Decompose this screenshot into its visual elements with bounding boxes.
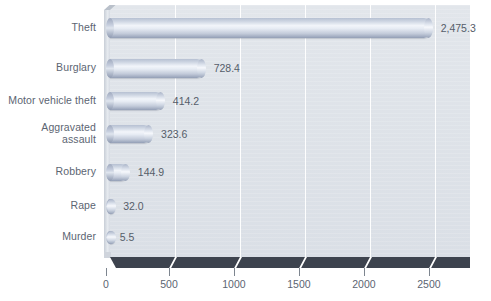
gridline-2000 — [370, 5, 372, 257]
floor-face — [110, 257, 470, 268]
bar — [110, 164, 129, 181]
axis-tick-2500 — [429, 268, 430, 276]
bar-value-label: 144.9 — [138, 166, 164, 178]
bar — [110, 199, 115, 214]
axis-tick-label: 1500 — [287, 278, 310, 290]
bar-end-cap — [107, 199, 116, 214]
axis-tick-0 — [106, 268, 107, 276]
category-label: Robbery — [56, 166, 96, 178]
bar-value-label: 32.0 — [123, 200, 143, 212]
gridline-2500 — [435, 5, 437, 257]
axis-tick-1000 — [234, 268, 235, 276]
bar-base-cap — [106, 125, 114, 143]
bar-chart: 2,475.3728.4414.2323.6144.932.05.5 Theft… — [0, 0, 491, 301]
category-label: Rape — [70, 200, 96, 212]
axis-tick-label: 2500 — [417, 278, 440, 290]
axis-tick-label: 2000 — [352, 278, 375, 290]
axis-tick-500 — [169, 268, 170, 276]
bar-end-cap — [121, 164, 130, 181]
bar-value-label: 323.6 — [161, 128, 187, 140]
bar-value-label: 5.5 — [120, 231, 135, 243]
bar-end-cap — [424, 18, 433, 38]
bar-end-cap — [156, 92, 165, 110]
bar-value-label: 728.4 — [214, 62, 240, 74]
gridline-1500 — [305, 5, 307, 257]
bar-value-label: 414.2 — [173, 95, 199, 107]
category-label: Burglary — [56, 62, 96, 74]
bar — [110, 59, 205, 78]
bar — [110, 231, 115, 244]
bar-end-cap — [144, 125, 153, 143]
axis-tick-label: 0 — [103, 278, 109, 290]
bar — [110, 92, 164, 110]
bar-end-cap — [197, 59, 206, 78]
axis-tick-label: 1000 — [222, 278, 245, 290]
bar — [110, 125, 152, 143]
category-label: Aggravated assault — [41, 122, 96, 145]
axis-tick-2000 — [364, 268, 365, 276]
bar-base-cap — [106, 59, 114, 78]
gridline-1000 — [240, 5, 242, 257]
axis-tick-1500 — [299, 268, 300, 276]
bar — [110, 18, 432, 38]
category-label: Theft — [72, 22, 96, 34]
bar-base-cap — [106, 18, 114, 38]
bar-end-cap — [107, 231, 116, 244]
category-label: Motor vehicle theft — [8, 95, 96, 107]
bar-base-cap — [106, 164, 114, 181]
x-axis-line — [104, 268, 474, 269]
category-label: Murder — [62, 231, 96, 243]
floor-3d — [110, 257, 470, 268]
axis-tick-label: 500 — [160, 278, 178, 290]
bar-base-cap — [106, 92, 114, 110]
bar-value-label: 2,475.3 — [441, 22, 476, 34]
